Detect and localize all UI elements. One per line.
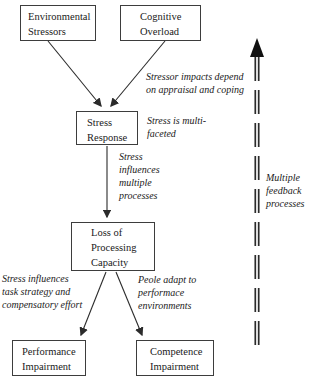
diagram-canvas: Environmental Stressors Cognitive Overlo… xyxy=(0,0,311,386)
annotation-task-strategy: Stress influences task strategy and comp… xyxy=(2,272,82,311)
feedback-arrow xyxy=(250,38,264,353)
node-stress-response: Stress Response xyxy=(76,111,138,145)
annotation-influences-processes: Stress influences multiple processes xyxy=(119,150,160,202)
node-environmental-stressors: Environmental Stressors xyxy=(20,5,96,41)
annotation-multifaceted: Stress is multi- faceted xyxy=(147,114,206,140)
node-cognitive-overload: Cognitive Overload xyxy=(120,5,201,41)
arrow-environmental-to-stress xyxy=(48,41,101,106)
node-loss-of-processing-capacity: Loss of Processing Capacity xyxy=(71,222,155,271)
annotation-adapt: Peole adapt to performace environments xyxy=(138,273,196,312)
arrow-loss-to-performance xyxy=(81,272,106,335)
node-competence-impairment: Competence Impairment xyxy=(136,340,214,376)
annotation-appraisal-coping: Stressor impacts depend on appraisal and… xyxy=(146,70,244,96)
annotation-feedback: Multiple feedback processes xyxy=(266,171,305,210)
node-performance-impairment: Performance Impairment xyxy=(12,340,86,376)
